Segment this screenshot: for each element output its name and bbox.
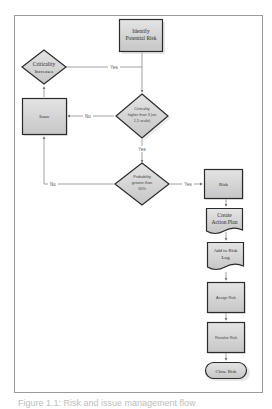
svg-text:Add to Risk: Add to Risk xyxy=(213,248,238,253)
svg-text:Log: Log xyxy=(221,255,230,260)
svg-text:Assign Risk: Assign Risk xyxy=(216,296,236,300)
flowchart: Yes No Yes No Yes Identify Potential Ris… xyxy=(0,0,272,409)
svg-text:Create: Create xyxy=(217,212,232,218)
edge-label-no-issue: No xyxy=(85,114,91,119)
svg-text:higher than 3 (on: higher than 3 (on xyxy=(128,113,157,117)
node-identify-potential-risk: Identify Potential Risk xyxy=(120,20,166,55)
edge-label-no-probability: No xyxy=(50,182,56,187)
edge-label-yes-risk: Yes xyxy=(184,182,192,187)
svg-text:Probability: Probability xyxy=(133,175,151,179)
svg-text:Issue: Issue xyxy=(39,114,50,119)
svg-text:Potential Risk: Potential Risk xyxy=(125,35,156,41)
svg-text:Resolve Risk: Resolve Risk xyxy=(215,336,237,340)
node-resolve-risk: Resolve Risk xyxy=(208,323,247,355)
svg-text:Action Plan: Action Plan xyxy=(211,219,237,225)
edge-label-yes-probability: Yes xyxy=(138,147,146,152)
figure-caption: Figure 1.1: Risk and issue management fl… xyxy=(18,398,258,409)
svg-text:Identify: Identify xyxy=(132,28,150,34)
svg-text:1-5 scale): 1-5 scale) xyxy=(134,119,151,123)
node-assign-risk: Assign Risk xyxy=(208,283,247,315)
svg-text:Increases: Increases xyxy=(35,69,54,74)
svg-text:Criticality: Criticality xyxy=(33,61,56,67)
svg-text:Close Risk: Close Risk xyxy=(216,369,238,374)
svg-text:greater than: greater than xyxy=(132,181,152,185)
node-close-risk: Close Risk xyxy=(206,363,251,382)
svg-text:Criticality: Criticality xyxy=(134,107,150,111)
node-risk: Risk xyxy=(205,170,245,201)
node-issue: Issue xyxy=(23,99,69,137)
svg-text:50%: 50% xyxy=(138,187,146,191)
edge-label-yes-increases: Yes xyxy=(110,65,118,70)
svg-text:Risk: Risk xyxy=(219,182,229,187)
